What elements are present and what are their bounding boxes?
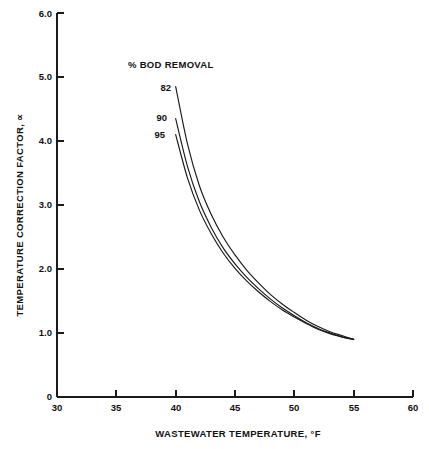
chart-figure: 0 1.0 2.0 3.0 4.0 5.0 6.0 30 35 40 45 50… (0, 0, 429, 449)
x-tick-label-50: 50 (289, 402, 300, 413)
y-tick-label-3: 3.0 (39, 199, 52, 210)
y-tick-label-0: 0 (47, 391, 52, 402)
y-axis-ticks (57, 13, 64, 397)
y-axis-tick-labels: 0 1.0 2.0 3.0 4.0 5.0 6.0 (39, 8, 52, 402)
curve-group (176, 87, 354, 340)
x-tick-label-55: 55 (349, 402, 360, 413)
y-tick-label-1: 1.0 (39, 327, 52, 338)
x-axis-title: WASTEWATER TEMPERATURE, °F (155, 428, 321, 439)
x-tick-label-45: 45 (230, 402, 241, 413)
y-tick-label-4: 4.0 (39, 135, 52, 146)
curve-series-95 (176, 135, 354, 340)
y-tick-label-2: 2.0 (39, 263, 52, 274)
x-tick-label-60: 60 (408, 402, 419, 413)
curve-series-90 (176, 119, 354, 340)
x-tick-label-35: 35 (111, 402, 122, 413)
x-tick-label-40: 40 (171, 402, 182, 413)
curve-label-82: 82 (160, 82, 171, 93)
y-axis-title: TEMPERATURE CORRECTION FACTOR, ∝ (14, 113, 25, 316)
curve-label-95: 95 (154, 129, 165, 140)
legend-title: % BOD REMOVAL (128, 59, 214, 70)
y-tick-label-5: 5.0 (39, 71, 52, 82)
x-tick-label-30: 30 (52, 402, 63, 413)
x-axis-ticks (57, 390, 413, 397)
temperature-correction-factor-chart: 0 1.0 2.0 3.0 4.0 5.0 6.0 30 35 40 45 50… (0, 0, 429, 449)
x-axis-tick-labels: 30 35 40 45 50 55 60 (52, 402, 419, 413)
curve-series-82 (176, 87, 354, 340)
y-tick-label-6: 6.0 (39, 8, 52, 19)
curve-label-90: 90 (156, 112, 167, 123)
curve-labels: 82 90 95 (154, 82, 171, 140)
